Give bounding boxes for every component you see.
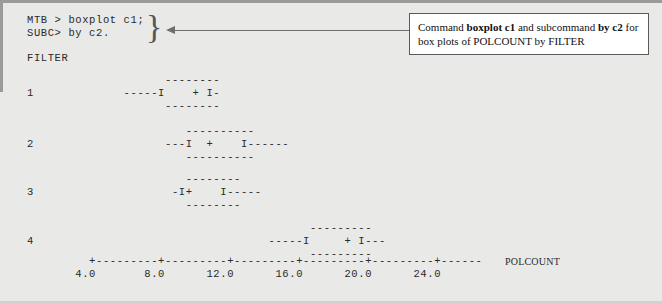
- figure-canvas: MTB > boxplot c1; SUBC> by c2. } Command…: [0, 0, 662, 304]
- annotation-line-1: Command boxplot c1 and subcommand by c2 …: [418, 20, 641, 34]
- minitab-command-lines: MTB > boxplot c1; SUBC> by c2.: [27, 14, 144, 40]
- x-axis-label: POLCOUNT: [505, 256, 560, 267]
- grouping-brace: }: [146, 10, 162, 44]
- annotation-line1-prefix: Command: [418, 21, 467, 33]
- annotation-arrow-icon: [166, 26, 175, 34]
- annotation-line1-suffix: for: [623, 21, 639, 33]
- annotation-line1-middle: and subcommand: [515, 21, 598, 33]
- annotation-line1-bold-command: boxplot c1: [467, 21, 516, 33]
- frame-top-rule: [0, 0, 662, 3]
- frame-left-rule: [0, 0, 3, 92]
- annotation-leader-line: [168, 30, 409, 31]
- boxplot-row-3: -------- 3 -I+ I----- --------: [27, 173, 262, 212]
- boxplot-row-2: ---------- 2 ---I + I------ ----------: [27, 125, 289, 164]
- annotation-line1-bold-subcommand: by c2: [598, 21, 623, 33]
- filter-axis-header: FILTER: [27, 52, 68, 65]
- annotation-callout: Command boxplot c1 and subcommand by c2 …: [409, 13, 649, 55]
- annotation-line-2: box plots of POLCOUNT by FILTER: [418, 34, 641, 48]
- boxplot-row-1: -------- 1 -----I + I- --------: [27, 74, 220, 113]
- x-axis-scale: +---------+---------+---------+---------…: [27, 255, 482, 281]
